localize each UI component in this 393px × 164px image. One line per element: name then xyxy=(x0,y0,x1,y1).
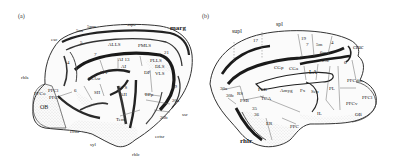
label-RS: RS xyxy=(237,91,243,96)
label-rhlr: rhlr xyxy=(240,138,252,145)
label-6-b: 6 xyxy=(344,60,347,65)
label-29c: 29c xyxy=(322,58,329,63)
label-LA: LA xyxy=(309,69,317,75)
label-35: 35 xyxy=(252,106,257,111)
brain-hemispheres-drawing xyxy=(0,0,393,164)
label-5-a: 5 xyxy=(80,40,83,45)
label-OB-a: OB xyxy=(40,104,48,110)
label-17: 17 xyxy=(253,38,258,43)
label-AII: AII xyxy=(120,92,127,97)
label-spl: spl xyxy=(276,21,283,27)
label-rhlc: rhlc xyxy=(132,152,140,157)
label-syl: syl xyxy=(90,142,96,147)
label-ssr: ssr xyxy=(182,112,188,117)
label-VLS: VLS xyxy=(155,71,164,76)
label-PPC: PPC xyxy=(290,124,299,129)
label-EPp: EPp xyxy=(145,92,153,97)
label-cruc: cruc xyxy=(353,44,363,50)
label-esc: esc xyxy=(51,37,57,42)
label-PFCdm: PFCdm xyxy=(347,78,362,83)
label-5aa: 5aa xyxy=(76,28,83,33)
label-ectsr-1: ectsr xyxy=(70,129,79,134)
label-ALLS: ALLS xyxy=(108,42,121,47)
label-4-b: 4 xyxy=(331,40,334,45)
label-19-b: 19 xyxy=(301,36,306,41)
label-AIS: AI S xyxy=(118,85,127,90)
label-S1Asr: S1Asr xyxy=(88,76,101,81)
label-PSB-1: PSB xyxy=(258,87,267,92)
label-supl: supl xyxy=(232,28,242,34)
label-30a: 30a xyxy=(220,86,227,91)
label-AI: AI xyxy=(121,64,126,69)
label-DP: DP xyxy=(144,70,150,75)
label-PFCo: PFCo xyxy=(34,91,45,96)
label-CGa: CGa xyxy=(289,66,298,71)
label-OB-b: OB xyxy=(355,112,362,117)
label-SII: SII xyxy=(94,90,100,95)
label-PFCl-a: PFCl xyxy=(48,88,58,93)
panel-a-tag: (a) xyxy=(18,13,25,19)
label-AI13: AI 13 xyxy=(118,57,130,62)
label-Amyg: Amyg xyxy=(280,88,293,93)
label-19-a: 19 xyxy=(172,84,177,89)
label-7-b: 7 xyxy=(306,42,309,47)
label-TCA: TCA xyxy=(261,96,271,101)
label-rhls: rhls xyxy=(21,75,29,80)
label-PFCv-a: PFCv xyxy=(49,95,60,100)
label-29b: 29b xyxy=(290,56,298,61)
label-7-a: 7 xyxy=(94,52,97,57)
label-36: 36 xyxy=(254,112,259,117)
label-ER: ER xyxy=(266,121,272,126)
label-ectsr-2: ectsr xyxy=(155,134,164,139)
panel-b-medial-hemisphere xyxy=(210,31,376,147)
label-Tem: Tem xyxy=(116,117,125,122)
label-21: 21 xyxy=(164,50,169,55)
label-PFCv-b: PFCv xyxy=(346,101,357,106)
label-4-a: 4 xyxy=(67,60,70,65)
label-Fx: Fx xyxy=(300,88,305,93)
label-6-a: 6 xyxy=(74,88,77,93)
label-ssps: ssps xyxy=(127,22,135,27)
brain-diagram-figure: (a) (b) marg ssps esc 5aa 5pm rhls rhlc … xyxy=(0,0,393,164)
label-PLLS: PLLS xyxy=(150,58,162,63)
label-marg: marg xyxy=(170,25,186,32)
label-SIV: SIV xyxy=(100,70,108,75)
label-PMLS: PMLS xyxy=(138,43,151,48)
label-CGp: CGp xyxy=(274,65,283,70)
panel-b-tag: (b) xyxy=(202,13,209,19)
label-PL: PL xyxy=(329,86,335,91)
label-5pm: 5pm xyxy=(87,24,96,29)
label-IL: IL xyxy=(317,111,322,116)
label-6m: 6m xyxy=(320,50,326,55)
label-PSB-2: PSB xyxy=(240,98,249,103)
label-Sep: Sep xyxy=(311,89,319,94)
label-20b: 20b xyxy=(160,115,168,120)
label-30b: 30b xyxy=(226,93,234,98)
label-5m: 5m xyxy=(316,42,322,47)
label-20a: 20a xyxy=(172,98,179,103)
label-DLS: DLS xyxy=(155,64,164,69)
label-PFCl-b: PFCl xyxy=(362,95,372,100)
